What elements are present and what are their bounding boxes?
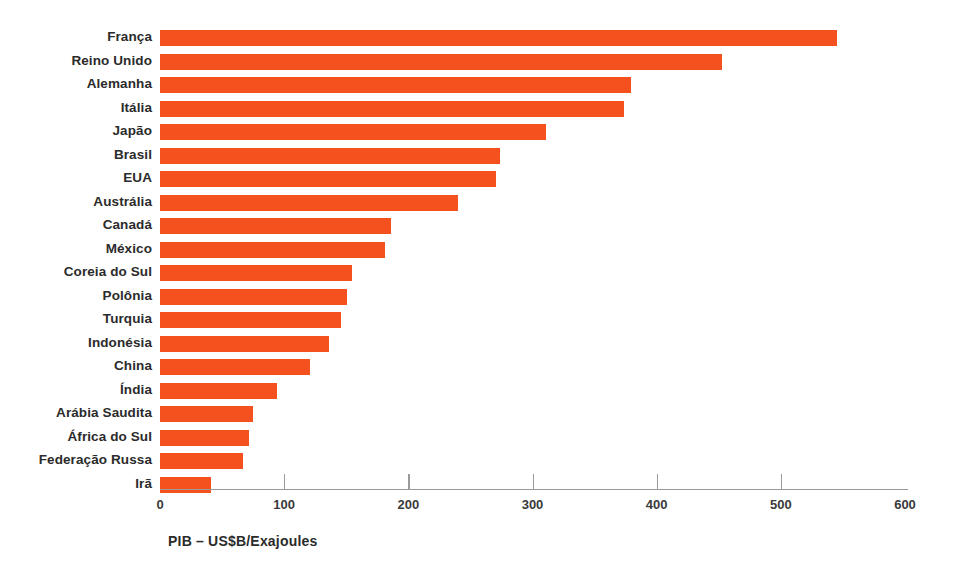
bar-row: Alemanha xyxy=(160,75,905,99)
x-axis-tick xyxy=(408,474,409,489)
bar-row: Reino Unido xyxy=(160,52,905,76)
bar-row: Austrália xyxy=(160,193,905,217)
x-axis-tick-marks xyxy=(160,474,905,489)
bar-row: Canadá xyxy=(160,216,905,240)
bar xyxy=(160,195,458,211)
bar xyxy=(160,289,347,305)
bar-row: Federação Russa xyxy=(160,451,905,475)
bar-series: FrançaReino UnidoAlemanhaItáliaJapãoBras… xyxy=(160,28,905,498)
plot-area: FrançaReino UnidoAlemanhaItáliaJapãoBras… xyxy=(160,28,905,483)
x-axis-line xyxy=(160,489,908,490)
bar-row: Brasil xyxy=(160,146,905,170)
bar-row: Itália xyxy=(160,99,905,123)
x-axis-tick-label: 600 xyxy=(894,497,916,512)
bar-row: Arábia Saudita xyxy=(160,404,905,428)
category-label: Canadá xyxy=(103,216,152,232)
bar xyxy=(160,336,329,352)
category-label: África do Sul xyxy=(67,428,152,444)
category-label: Coreia do Sul xyxy=(64,263,152,279)
x-axis-tick-label: 400 xyxy=(646,497,668,512)
x-axis-tick xyxy=(781,474,782,489)
category-label: Reino Unido xyxy=(71,52,152,68)
bar-row: África do Sul xyxy=(160,428,905,452)
bar-row: China xyxy=(160,357,905,381)
bar-row: México xyxy=(160,240,905,264)
bar xyxy=(160,54,722,70)
x-axis-tick-label: 300 xyxy=(522,497,544,512)
bar xyxy=(160,430,249,446)
bar xyxy=(160,218,391,234)
bar-row: EUA xyxy=(160,169,905,193)
x-axis-tick-label: 200 xyxy=(397,497,419,512)
category-label: Federação Russa xyxy=(39,451,152,467)
bar xyxy=(160,406,253,422)
bar xyxy=(160,265,352,281)
category-label: Austrália xyxy=(93,193,152,209)
category-label: Arábia Saudita xyxy=(56,404,152,420)
category-label: Polônia xyxy=(103,287,152,303)
x-axis-tick xyxy=(657,474,658,489)
x-axis-tick-label: 100 xyxy=(273,497,295,512)
bar xyxy=(160,359,310,375)
bar-chart-figure: FrançaReino UnidoAlemanhaItáliaJapãoBras… xyxy=(0,0,955,580)
category-label: Itália xyxy=(121,99,152,115)
category-label: França xyxy=(107,28,152,44)
bar xyxy=(160,242,385,258)
bar-row: Coreia do Sul xyxy=(160,263,905,287)
x-axis-tick-label: 0 xyxy=(156,497,163,512)
category-label: México xyxy=(106,240,152,256)
bar-row: França xyxy=(160,28,905,52)
category-label: Turquia xyxy=(103,310,152,326)
x-axis-tick-label: 500 xyxy=(770,497,792,512)
bar-row: Japão xyxy=(160,122,905,146)
bar xyxy=(160,77,631,93)
bar xyxy=(160,383,277,399)
category-label: Japão xyxy=(112,122,152,138)
bar xyxy=(160,101,624,117)
category-label: EUA xyxy=(123,169,152,185)
bar xyxy=(160,124,546,140)
bar xyxy=(160,30,837,46)
bar xyxy=(160,312,341,328)
x-axis-tick xyxy=(533,474,534,489)
bar-row: Turquia xyxy=(160,310,905,334)
category-label: Irã xyxy=(135,475,152,491)
bar xyxy=(160,453,243,469)
x-axis-tick xyxy=(284,474,285,489)
category-label: Indonésia xyxy=(88,334,152,350)
category-label: Alemanha xyxy=(87,75,152,91)
x-axis-title: PIB – US$B/Exajoules xyxy=(168,533,318,549)
x-axis-tick-labels: 0100200300400500600 xyxy=(160,497,905,517)
bar xyxy=(160,171,496,187)
bar-row: Indonésia xyxy=(160,334,905,358)
category-label: Brasil xyxy=(114,146,152,162)
bar-row: Índia xyxy=(160,381,905,405)
category-label: China xyxy=(114,357,152,373)
bar-row: Polônia xyxy=(160,287,905,311)
category-label: Índia xyxy=(120,381,152,397)
bar xyxy=(160,148,500,164)
